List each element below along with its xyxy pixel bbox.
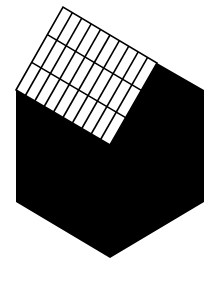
hexagon-panel-illustration <box>0 0 218 281</box>
